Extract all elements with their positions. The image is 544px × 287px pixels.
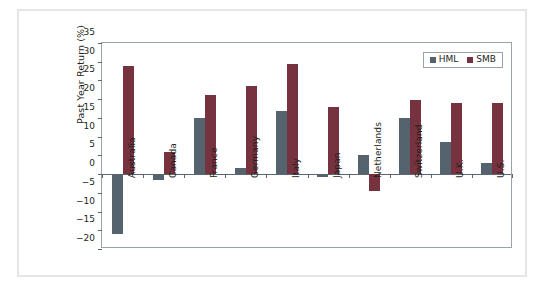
y-axis-tick-mark [98,80,102,81]
y-axis-tick-label: 15 [67,103,95,112]
y-axis-tick-label: 0 [67,159,95,168]
legend-swatch-smb [467,57,473,63]
legend-entry-smb: SMB [467,55,496,64]
x-axis-category-label: U.K. [455,159,465,178]
x-axis-tick-mark [390,174,391,178]
x-axis-tick-mark [225,174,226,178]
x-axis-tick-mark [472,174,473,178]
legend-entry-hml: HML [430,55,459,64]
y-axis-tick-mark [98,99,102,100]
y-axis-tick-mark [98,62,102,63]
bar-hml-netherlands [358,155,369,174]
x-axis-category-label: France [209,148,219,179]
x-axis-category-label: Germany [250,136,260,178]
x-axis-category-label: Canada [168,143,178,178]
y-axis-tick-label: 25 [67,65,95,74]
bar-hml-switzerland [399,118,410,174]
y-axis-tick-label: 10 [67,122,95,131]
y-axis-tick-label: −5 [67,178,95,187]
bar-hml-germany [235,168,246,174]
x-axis-tick-mark [308,174,309,178]
bar-hml-australia [112,174,123,234]
x-axis-category-label: Japan [332,152,342,178]
y-axis-tick-label: 20 [67,84,95,93]
y-axis-tick-mark [98,230,102,231]
x-axis-category-label: U.S. [496,160,506,178]
x-axis-category-label: Netherlands [373,122,383,178]
x-axis-tick-mark [143,174,144,178]
y-axis-tick-mark [98,193,102,194]
legend-swatch-hml [430,57,436,63]
x-axis-tick-mark [431,174,432,178]
y-axis-tick-label: 35 [67,28,95,37]
bar-hml-france [194,118,205,174]
plot-inner: AustraliaCanadaFranceGermanyItalyJapanNe… [102,43,511,247]
bar-hml-us [481,163,492,174]
y-axis-tick-label: 5 [67,140,95,149]
x-axis-category-label: Italy [291,158,301,178]
y-axis-tick-mark [98,137,102,138]
x-axis-category-label: Australia [127,137,137,178]
figure-border: Past Year Return (%) 35302520151050−5−10… [17,9,527,277]
y-axis-tick-label: −10 [67,197,95,206]
bar-hml-uk [440,142,451,174]
x-axis-tick-mark [184,174,185,178]
x-axis-tick-mark [349,174,350,178]
y-axis-tick-mark [98,118,102,119]
bar-hml-japan [317,174,328,177]
legend-label: SMB [476,55,496,64]
y-axis-tick-labels: 35302520151050−5−10−15−20 [65,33,95,239]
x-axis-tick-mark [102,174,103,178]
y-axis-tick-mark [98,43,102,44]
bar-hml-italy [276,111,287,174]
y-axis-tick-label: −15 [67,215,95,224]
x-axis-tick-mark [512,174,513,178]
chart-figure: Past Year Return (%) 35302520151050−5−10… [0,0,544,287]
x-axis-category-label: Switzerland [414,124,424,178]
legend-label: HML [439,55,459,64]
chart-legend: HMLSMB [423,52,503,68]
bar-hml-canada [153,174,164,180]
y-axis-tick-mark [98,249,102,250]
y-axis-tick-label: 30 [67,47,95,56]
y-axis-tick-label: −20 [67,234,95,243]
x-axis-tick-mark [266,174,267,178]
plot-area: AustraliaCanadaFranceGermanyItalyJapanNe… [101,42,512,248]
y-axis-tick-mark [98,155,102,156]
y-axis-tick-mark [98,212,102,213]
